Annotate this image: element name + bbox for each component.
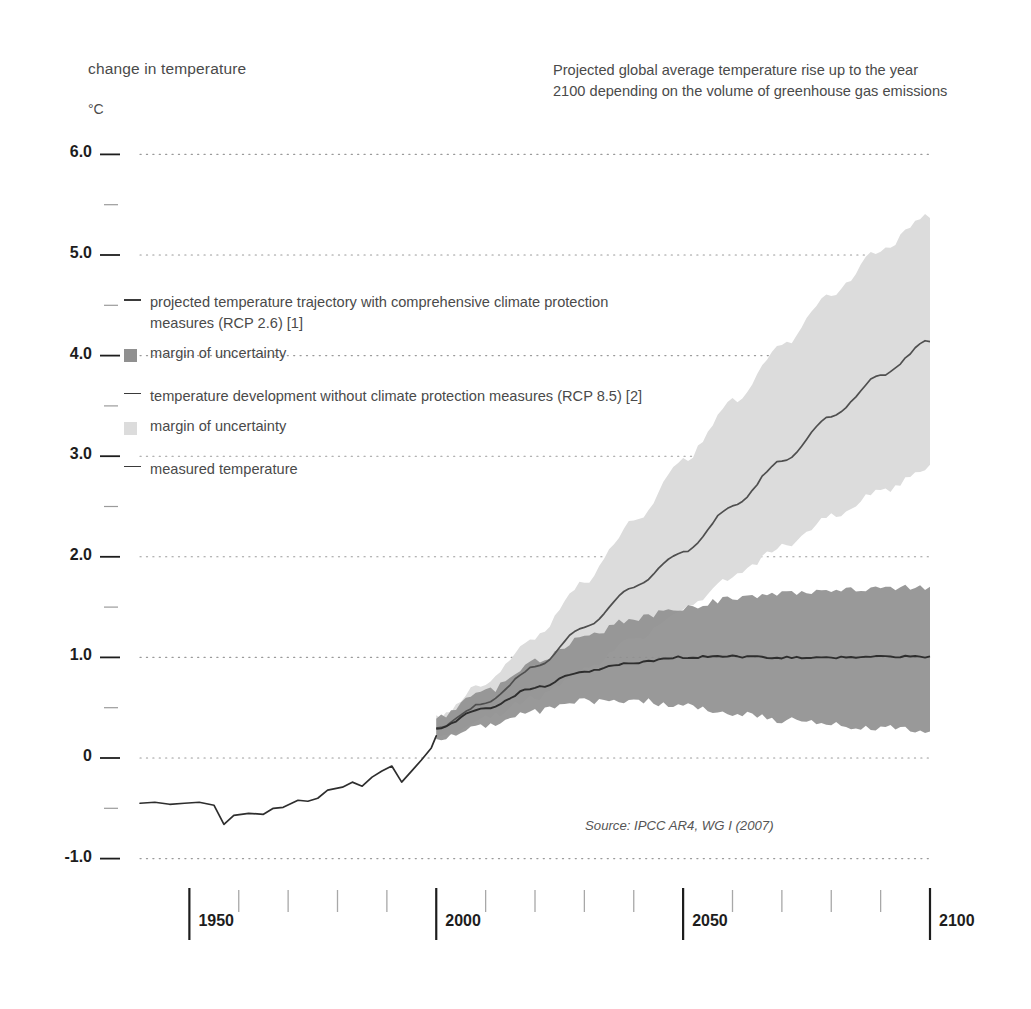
legend-label: margin of uncertainty xyxy=(150,416,286,437)
y-axis-tick-label: 2.0 xyxy=(32,546,92,564)
y-axis-tick-label: 5.0 xyxy=(32,244,92,262)
legend-label: margin of uncertainty xyxy=(150,343,286,364)
legend-item-rcp85-line: temperature development without climate … xyxy=(124,386,644,407)
y-axis-tick-label: 3.0 xyxy=(32,445,92,463)
climate-projection-chart: change in temperature °C Projected globa… xyxy=(0,0,1031,1009)
legend: projected temperature trajectory with co… xyxy=(124,292,644,479)
y-axis-tick-label: -1.0 xyxy=(32,848,92,866)
x-axis-tick-label: 2000 xyxy=(445,912,481,930)
legend-item-rcp26-line: projected temperature trajectory with co… xyxy=(124,292,644,333)
plot-area xyxy=(0,0,1031,1009)
swatch-icon xyxy=(124,416,150,435)
legend-label: temperature development without climate … xyxy=(150,386,642,407)
legend-label: measured temperature xyxy=(150,459,298,480)
legend-item-rcp85-band: margin of uncertainty xyxy=(124,416,644,437)
y-axis-tick-label: 6.0 xyxy=(32,143,92,161)
source-attribution: Source: IPCC AR4, WG I (2007) xyxy=(585,818,774,833)
line-icon xyxy=(124,386,150,395)
y-axis-tick-label: 4.0 xyxy=(32,345,92,363)
line-icon xyxy=(124,459,150,468)
x-axis-tick-label: 2100 xyxy=(939,912,975,930)
x-axis-tick-label: 2050 xyxy=(692,912,728,930)
y-axis-tick-label: 1.0 xyxy=(32,646,92,664)
x-axis-tick-label: 1950 xyxy=(198,912,234,930)
legend-item-rcp26-band: margin of uncertainty xyxy=(124,343,644,364)
y-axis-tick-label: 0 xyxy=(32,747,92,765)
legend-label: projected temperature trajectory with co… xyxy=(150,292,644,333)
swatch-icon xyxy=(124,343,150,362)
line-icon xyxy=(124,292,150,301)
legend-item-measured: measured temperature xyxy=(124,459,644,480)
